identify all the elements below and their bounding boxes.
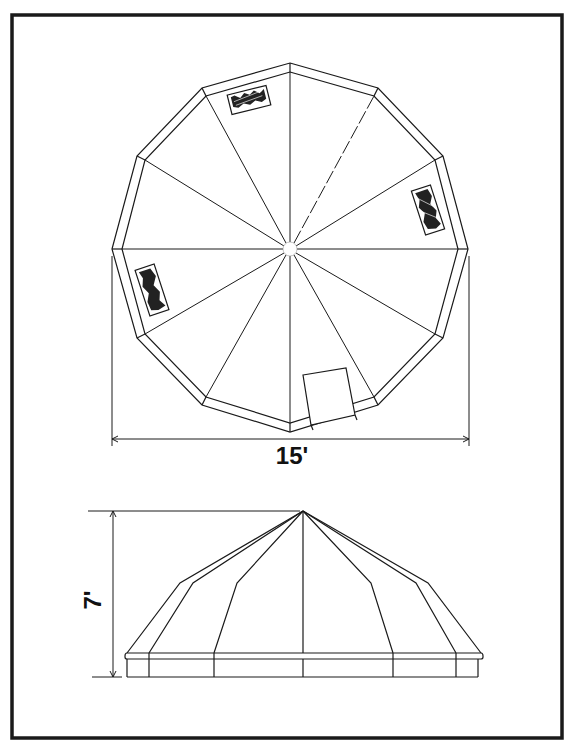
- central-hub: [283, 242, 297, 256]
- roof-rib: [214, 511, 303, 653]
- skylight-window-right: [411, 185, 444, 235]
- height-dimension: [88, 511, 300, 677]
- roof-outer-left: [127, 511, 303, 653]
- skylight-window-top: [227, 85, 271, 114]
- elevation-view: [88, 511, 483, 677]
- base-ring: [125, 653, 483, 677]
- dome-diagram: 15' 7': [0, 0, 575, 751]
- roof-rib: [149, 511, 303, 653]
- width-label: 15': [276, 442, 308, 469]
- height-label: 7': [79, 590, 106, 609]
- roof-rib: [303, 511, 456, 653]
- skylight-window-left: [135, 264, 169, 316]
- roof-outer-right: [303, 511, 481, 653]
- roof-rib: [303, 511, 393, 653]
- door-panel: [303, 368, 357, 430]
- plan-view: [112, 63, 468, 432]
- frame-border: [12, 15, 562, 738]
